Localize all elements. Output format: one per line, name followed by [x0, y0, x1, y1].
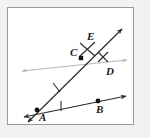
point-label-B: B: [96, 104, 103, 115]
point-label-E: E: [87, 31, 94, 42]
geometry-diagram: [0, 0, 150, 138]
point-label-A: A: [39, 112, 46, 123]
point-label-D: D: [106, 66, 114, 77]
point-C-marker: [79, 56, 83, 60]
geometry-figure-panel: A B C D E: [0, 0, 150, 138]
point-label-C: C: [70, 47, 77, 58]
